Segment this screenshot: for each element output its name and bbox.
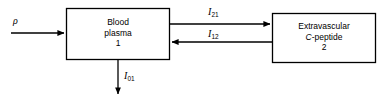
flow-2-to-1-subscript: 12 xyxy=(212,33,219,40)
compartment-2-box xyxy=(273,14,376,63)
input-flow-label: ρ xyxy=(13,15,18,26)
flow-1-to-2-label: I21 xyxy=(208,6,218,17)
flow-1-to-2-symbol: I xyxy=(208,6,211,17)
compartmental-model-diagram: Blood plasma 1 Extravascular C-peptide 2… xyxy=(0,0,384,103)
elimination-flow-subscript: 01 xyxy=(128,75,135,82)
flow-2-to-1-symbol: I xyxy=(208,28,211,39)
flow-2-to-1-label: I12 xyxy=(208,28,218,39)
input-flow-symbol: ρ xyxy=(13,15,18,26)
elimination-flow-label: I01 xyxy=(124,70,134,81)
elimination-flow-symbol: I xyxy=(124,70,127,81)
compartment-1-box xyxy=(67,9,170,60)
flow-1-to-2-subscript: 21 xyxy=(212,11,219,18)
diagram-canvas xyxy=(0,0,384,103)
